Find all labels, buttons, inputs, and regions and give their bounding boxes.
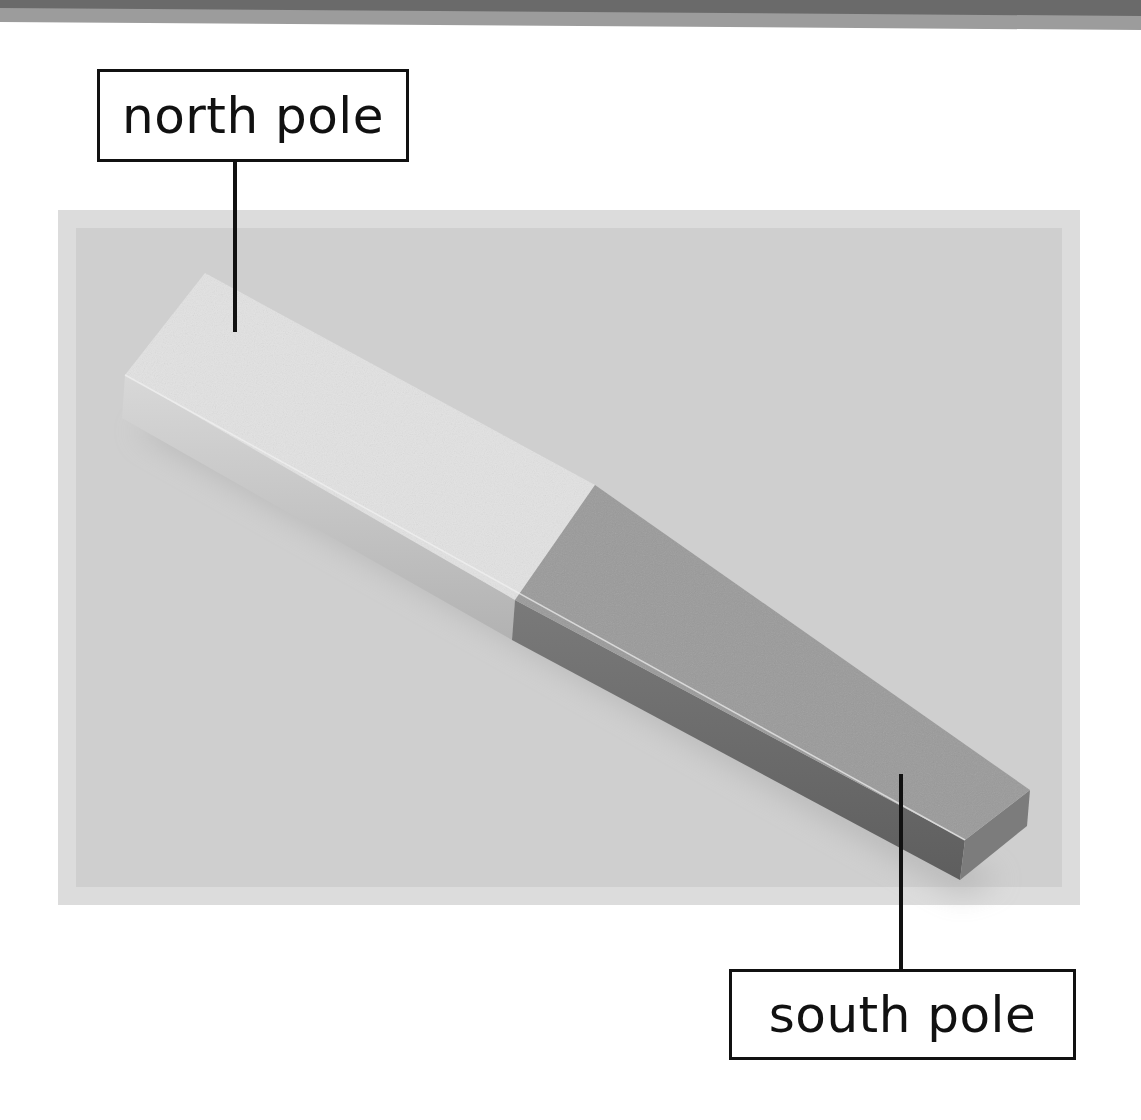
north-pole-label-text: north pole (122, 87, 384, 145)
north-pole-leader-line (233, 160, 237, 332)
magnet-edge-highlight (125, 375, 965, 840)
bar-magnet (0, 0, 1141, 1120)
south-pole-label: south pole (729, 969, 1076, 1060)
south-pole-leader-line (899, 774, 903, 971)
south-pole-label-text: south pole (769, 986, 1037, 1044)
north-pole-label: north pole (97, 69, 409, 162)
